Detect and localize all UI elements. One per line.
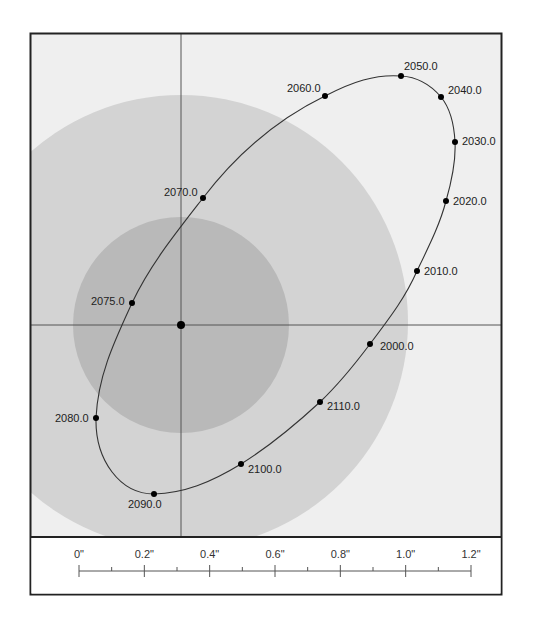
- orbit-point: [93, 415, 99, 421]
- orbit-point-label: 2060.0: [287, 82, 321, 94]
- orbit-point-label: 2000.0: [380, 340, 414, 352]
- orbit-diagram: 2000.02010.02020.02030.02040.02050.02060…: [0, 0, 541, 619]
- orbit-point-label: 2090.0: [128, 498, 162, 510]
- scale-tick-label: 1.2": [461, 548, 480, 560]
- orbit-point: [238, 461, 244, 467]
- scale-tick-label: 0.6": [265, 548, 284, 560]
- orbit-point: [438, 94, 444, 100]
- orbit-point-label: 2040.0: [448, 84, 482, 96]
- orbit-point: [317, 399, 323, 405]
- orbit-point: [398, 73, 404, 79]
- scale-tick-label: 0": [74, 548, 84, 560]
- orbit-point: [151, 491, 157, 497]
- scale-panel: [32, 538, 501, 594]
- orbit-point-label: 2050.0: [404, 60, 438, 72]
- orbit-point: [129, 300, 135, 306]
- orbit-point-label: 2030.0: [462, 135, 496, 147]
- orbit-point: [414, 268, 420, 274]
- scale-tick-label: 1.0": [396, 548, 415, 560]
- orbit-point-label: 2110.0: [327, 400, 360, 412]
- orbit-point: [200, 195, 206, 201]
- primary-star-dot: [177, 321, 185, 329]
- orbit-point: [322, 93, 328, 99]
- orbit-point: [452, 139, 458, 145]
- scale-tick-label: 0.2": [135, 548, 154, 560]
- orbit-point-label: 2020.0: [453, 195, 487, 207]
- orbit-point: [367, 341, 373, 347]
- orbit-point-label: 2100.0: [248, 463, 282, 475]
- orbit-point-label: 2070.0: [164, 186, 198, 198]
- orbit-point-label: 2075.0: [91, 295, 125, 307]
- orbit-point-label: 2080.0: [55, 412, 89, 424]
- scale-tick-label: 0.8": [331, 548, 350, 560]
- scale-tick-label: 0.4": [200, 548, 219, 560]
- orbit-point-label: 2010.0: [424, 265, 458, 277]
- orbit-point: [443, 198, 449, 204]
